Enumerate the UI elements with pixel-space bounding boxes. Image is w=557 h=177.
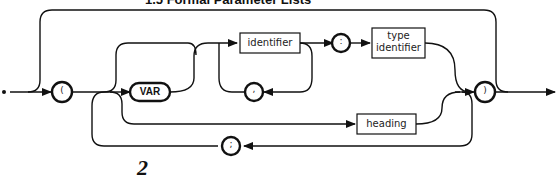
semicolon-label: ; [221, 139, 241, 149]
type-identifier-label-line1: type [372, 30, 425, 42]
open-paren-label: ( [52, 85, 72, 95]
comma-label: , [244, 84, 264, 94]
syntax-diagram [0, 0, 557, 177]
page-number: 2 [137, 155, 148, 177]
var-keyword-label: VAR [130, 86, 170, 97]
type-identifier-label-line2: identifier [372, 42, 425, 54]
close-paren-label: ) [475, 85, 495, 95]
colon-label: : [331, 36, 351, 46]
entry-dot [2, 90, 6, 94]
identifier-label: identifier [240, 37, 300, 49]
heading-label: heading [357, 118, 416, 130]
